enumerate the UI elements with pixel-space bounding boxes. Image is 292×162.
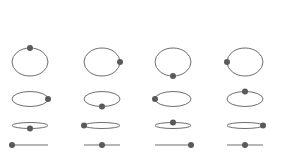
ellipse-cell (155, 48, 191, 79)
position-dot (99, 104, 105, 110)
ellipse-cell (84, 142, 120, 148)
ellipse-outline (12, 48, 48, 76)
ellipse-outline (227, 123, 263, 129)
position-dot (242, 142, 248, 148)
ellipse-cell (227, 89, 263, 107)
ellipse-outline (155, 92, 191, 107)
ellipse-cell (12, 45, 48, 76)
ellipse-cell (81, 123, 120, 129)
ellipse-diagram (0, 0, 292, 162)
ellipse-row-3 (12, 120, 266, 132)
position-dot (260, 123, 266, 129)
ellipse-cell (84, 92, 120, 110)
ellipse-cell (84, 48, 123, 76)
position-dot (27, 126, 33, 132)
ellipse-cell (9, 142, 48, 148)
position-dot (45, 96, 51, 102)
ellipse-row-2 (12, 89, 263, 110)
position-dot (117, 59, 123, 65)
ellipse-outline (227, 48, 263, 76)
ellipse-row-4 (9, 142, 263, 148)
position-dot (81, 123, 87, 129)
position-dot (188, 142, 194, 148)
ellipse-cell (227, 123, 266, 129)
ellipse-cell (12, 92, 51, 107)
ellipse-cell (155, 142, 194, 148)
position-dot (27, 45, 33, 51)
ellipse-cell (12, 123, 48, 132)
ellipse-cell (152, 92, 191, 107)
position-dot (99, 142, 105, 148)
ellipse-outline (84, 123, 120, 129)
ellipse-cell (224, 48, 263, 76)
ellipse-outline (155, 48, 191, 76)
ellipse-outline (84, 48, 120, 76)
ellipse-outline (12, 92, 48, 107)
position-dot (170, 120, 176, 126)
position-dot (9, 142, 15, 148)
position-dot (152, 96, 158, 102)
position-dot (242, 89, 248, 95)
position-dot (224, 59, 230, 65)
ellipse-cell (155, 120, 191, 129)
ellipse-cell (227, 142, 263, 148)
position-dot (170, 73, 176, 79)
ellipse-row-1 (12, 45, 263, 79)
